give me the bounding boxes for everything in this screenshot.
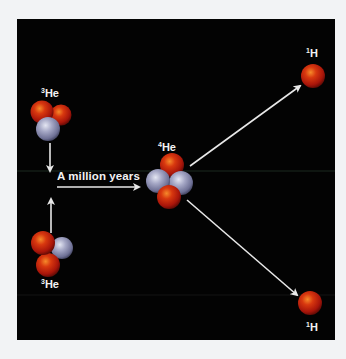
time-caption: A million years <box>57 170 140 182</box>
diagram-panel: 3He 3He 4He 1H 1H A million years <box>17 19 335 340</box>
label-hydrogen-top: 1H <box>306 47 318 59</box>
neutron-icon <box>36 117 60 141</box>
helium4-nucleus <box>146 153 193 209</box>
label-helium3-bottom: 3He <box>41 278 59 290</box>
proton-icon <box>36 253 60 277</box>
proton-icon <box>157 185 181 209</box>
helium3-nucleus-bottom <box>31 231 73 277</box>
label-helium4: 4He <box>158 141 176 153</box>
arrow-up-right-icon <box>190 86 300 166</box>
hydrogen-nucleus-bottom <box>298 291 322 315</box>
label-hydrogen-bottom: 1H <box>306 321 318 333</box>
hydrogen-nucleus-top <box>301 64 325 88</box>
proton-icon <box>31 231 55 255</box>
label-helium3-top: 3He <box>41 87 59 99</box>
helium3-nucleus-top <box>31 101 72 142</box>
arrow-down-right-icon <box>187 200 297 295</box>
